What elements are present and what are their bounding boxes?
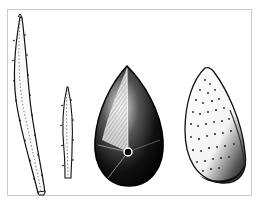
botanical-illustration	[0, 0, 260, 208]
short-bract	[60, 87, 74, 178]
illustration-plate	[0, 0, 260, 208]
pitted-seed	[185, 68, 246, 183]
long-bract	[12, 14, 45, 195]
hilum-dot	[124, 148, 132, 156]
dark-seed	[95, 66, 163, 186]
